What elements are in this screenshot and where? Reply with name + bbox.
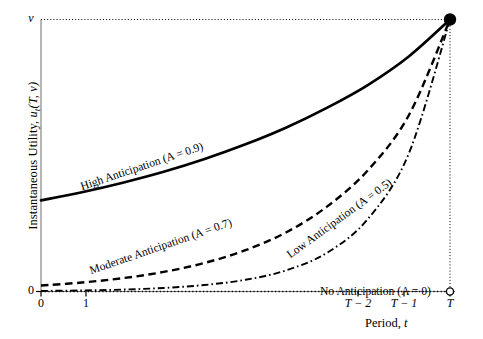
y-axis-title: Instantaneous Utility, ut(T, v) <box>26 36 42 276</box>
chart-figure: Instantaneous Utility, ut(T, v) Period, … <box>0 0 483 339</box>
y-axis-title-args: (T, v) <box>26 82 40 109</box>
origin-T-open-marker <box>446 288 453 295</box>
y-tick-label-v: v <box>24 11 38 26</box>
y-axis-title-subscript: t <box>32 109 42 112</box>
x-axis-title-prefix: Period, <box>365 316 404 330</box>
y-axis-title-symbol: u <box>26 111 40 117</box>
terminal-point-marker <box>444 13 456 25</box>
x-axis-title: Period, t <box>365 316 407 331</box>
x-tick-label-tminus1: T − 1 <box>382 296 426 311</box>
x-tick-label-0: 0 <box>34 296 48 311</box>
y-axis-title-prefix: Instantaneous Utility, <box>26 117 40 229</box>
curve-label-no-anticipation: No Anticipation (A = 0) <box>320 285 431 298</box>
x-axis-title-symbol: t <box>404 316 407 330</box>
x-tick-label-1: 1 <box>79 296 93 311</box>
x-tick-label-tminus2: T − 2 <box>336 296 380 311</box>
x-tick-label-T: T <box>443 296 457 311</box>
curve-moderate-anticipation <box>41 20 450 286</box>
